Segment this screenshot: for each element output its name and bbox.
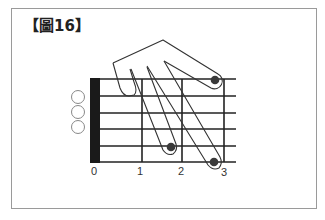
open-string-markers [72,91,85,134]
fret-label-2: 2 [178,165,184,177]
chord-diagram: 0 1 2 3 [0,0,325,220]
finger-dot [211,76,220,85]
fret-label-1: 1 [137,165,143,177]
fret-labels: 0 1 2 3 [91,165,227,178]
frets [142,79,224,162]
finger-dot [210,158,219,167]
finger-index [131,67,177,155]
open-circle-icon [72,106,85,119]
hand-palm [113,40,222,89]
fret-label-3: 3 [221,166,227,178]
nut [90,78,100,163]
fret-label-0: 0 [91,165,97,177]
open-circle-icon [72,91,85,104]
open-circle-icon [72,121,85,134]
finger-dot [167,143,176,152]
finger-middle [147,61,221,169]
